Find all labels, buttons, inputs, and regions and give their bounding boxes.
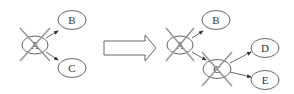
cross-mark-icon	[20, 28, 50, 61]
left-graph: A B C	[20, 11, 86, 78]
edge-c-e	[230, 72, 251, 77]
node-d: D	[251, 39, 279, 58]
node-d-label: D	[261, 42, 269, 54]
node-a: A	[20, 28, 50, 61]
node-a: A	[166, 28, 194, 61]
edge-a-b	[192, 31, 203, 38]
node-c: C	[58, 59, 86, 78]
edge-c-d	[230, 52, 251, 63]
node-b-label: B	[212, 14, 219, 26]
graph-deletion-diagram: A B C A	[0, 0, 294, 94]
cross-mark-icon	[202, 52, 232, 86]
node-e: E	[251, 71, 279, 90]
node-b-label: B	[68, 14, 75, 26]
node-c: C	[202, 52, 232, 86]
node-c-label: C	[68, 62, 75, 74]
node-e-label: E	[262, 74, 269, 86]
cross-mark-icon	[166, 28, 194, 61]
transition-arrow-icon	[104, 35, 156, 61]
node-b: B	[202, 11, 230, 30]
edge-a-b	[46, 31, 58, 38]
node-b: B	[58, 11, 86, 30]
right-graph: A B C D E	[166, 11, 279, 90]
